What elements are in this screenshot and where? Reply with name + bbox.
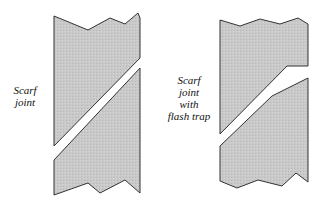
scarf-joint-label: Scarf joint (8, 84, 42, 108)
label-line: joint (8, 96, 42, 108)
label-line: joint (163, 86, 215, 98)
label-line: flash trap (163, 110, 215, 122)
flash-trap-label: Scarf joint with flash trap (163, 74, 215, 122)
label-line: Scarf (163, 74, 215, 86)
label-line: Scarf (8, 84, 42, 96)
label-line: with (163, 98, 215, 110)
